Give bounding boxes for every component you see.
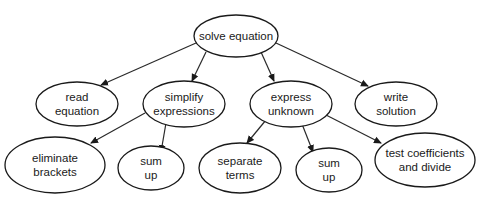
node-express: expressunknown [250,81,332,127]
node-label: test coefficients [385,147,464,159]
node-sumup2: sumup [296,148,362,192]
node-label: express [271,91,312,103]
node-label: expressions [153,105,215,117]
node-label: eliminate [32,152,78,164]
edge-solve-to-express [261,52,274,81]
node-ellipse [250,81,332,127]
edges-layer [91,43,381,152]
node-label: up [323,171,336,183]
node-label: solve equation [199,30,273,42]
edge-solve-to-read [101,43,196,85]
node-test: test coefficientsand divide [375,133,475,187]
goal-tree-diagram: solve equationreadequationsimplifyexpres… [0,0,504,197]
node-ellipse [36,82,118,126]
node-sumup1: sumup [118,146,184,190]
edge-express-to-separate [247,120,266,143]
node-ellipse [5,137,105,193]
node-eliminate: eliminatebrackets [5,137,105,193]
node-separate: separateterms [199,143,281,193]
node-label: terms [226,169,255,181]
node-ellipse [199,143,281,193]
node-ellipse [143,81,225,127]
node-read: readequation [36,82,118,126]
node-label: brackets [33,166,77,178]
node-solve: solve equation [194,15,278,57]
node-label: and divide [399,161,451,173]
diagram-canvas: solve equationreadequationsimplifyexpres… [0,0,504,197]
node-label: read [65,91,88,103]
node-label: up [145,169,158,181]
edge-express-to-sumup2 [302,124,313,152]
edge-solve-to-write [276,43,368,86]
node-ellipse [375,133,475,187]
edge-solve-to-simplify [192,52,206,81]
node-write: writesolution [355,82,437,126]
node-ellipse [118,146,184,190]
node-ellipse [355,82,437,126]
node-label: sum [318,157,340,169]
node-label: unknown [268,105,314,117]
node-label: equation [55,105,99,117]
node-label: write [383,91,408,103]
node-label: solution [376,105,416,117]
node-simplify: simplifyexpressions [143,81,225,127]
node-ellipse [296,148,362,192]
node-label: sum [140,155,162,167]
nodes-layer: solve equationreadequationsimplifyexpres… [5,15,475,193]
node-label: separate [218,155,263,167]
node-label: simplify [165,91,204,103]
